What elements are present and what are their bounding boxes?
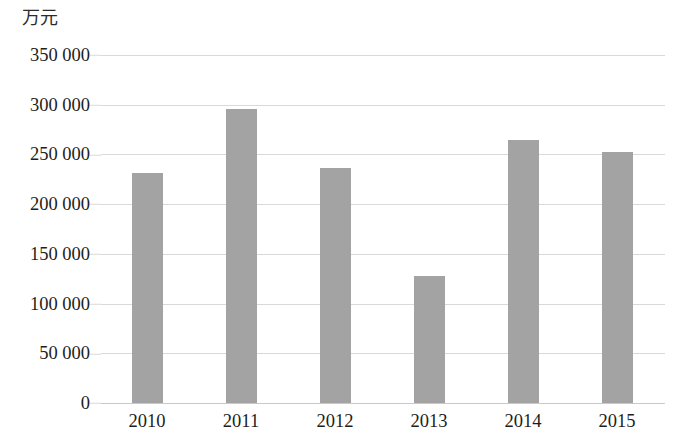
x-axis-tick-label: 2015 [570,409,664,433]
x-axis-tick-label: 2013 [382,409,476,433]
y-axis-tick-label: 100 000 [30,294,90,313]
bar-2015 [602,152,633,403]
gridline [101,55,665,56]
gridline [101,353,665,354]
y-axis-tick-label: 300 000 [30,95,90,114]
y-axis-tick-label: 200 000 [30,195,90,214]
bar-2012 [320,168,351,403]
bar-2011 [226,109,257,403]
gridline [101,254,665,255]
x-axis-tick-label: 2010 [100,409,194,433]
bar-2014 [508,140,539,403]
y-axis-tick-label: 50 000 [39,344,90,363]
gridline [101,403,665,404]
x-axis-tick-label: 2014 [476,409,570,433]
x-axis-tick-labels: 201020112012201320142015 [101,409,665,439]
gridline [101,204,665,205]
bar-2010 [132,173,163,403]
y-axis-tick-labels: 050 000100 000150 000200 000250 000300 0… [0,55,101,403]
x-axis-tick-label: 2012 [288,409,382,433]
y-axis-tick-label: 0 [81,394,90,413]
plot-area [101,55,665,403]
bar-chart: 万元 050 000100 000150 000200 000250 00030… [0,0,690,440]
y-axis-tick-label: 150 000 [30,245,90,264]
gridline [101,154,665,155]
gridline [101,105,665,106]
y-axis-unit-label: 万元 [22,6,58,30]
y-axis-tick-label: 250 000 [30,145,90,164]
bar-2013 [414,276,445,403]
x-axis-tick-label: 2011 [194,409,288,433]
y-axis-tick-label: 350 000 [30,46,90,65]
gridline [101,304,665,305]
